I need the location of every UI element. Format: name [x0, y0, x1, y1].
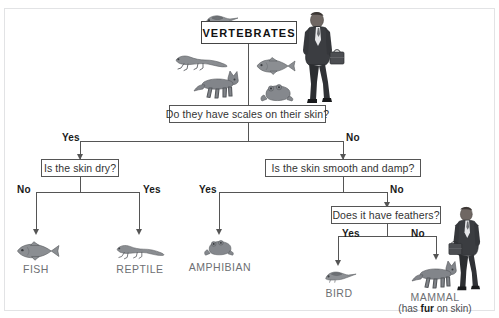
connector-scales-split	[80, 141, 343, 142]
arrow-feathers-yes	[335, 260, 341, 266]
root-node-vertebrates: VERTEBRATES	[201, 21, 297, 44]
connector-smooth-stem	[343, 177, 344, 192]
arrow-dry-no	[33, 229, 39, 235]
connector-dry-stem	[80, 177, 81, 192]
edge-label-feathers-yes: Yes	[342, 228, 360, 239]
leaf-note-suffix: on skin)	[434, 303, 472, 314]
connector-dry-no	[36, 192, 37, 233]
leaf-icon-reptile	[112, 240, 168, 262]
edge-label-dry-yes: Yes	[143, 184, 161, 195]
edge-label-scales-yes: Yes	[62, 132, 80, 143]
leaf-label-fish: FISH	[0, 263, 72, 275]
art-root-fox	[192, 68, 242, 102]
leaf-icon-mammal	[410, 258, 460, 292]
edge-label-dry-no: No	[17, 184, 31, 195]
art-root-frog	[258, 82, 298, 104]
leaf-icon-bird	[320, 268, 358, 284]
connector-smooth-split	[219, 192, 387, 193]
art-root-man	[297, 10, 345, 106]
connector-feathers-stem	[387, 224, 388, 236]
leaf-label-amphibian: AMPHIBIAN	[184, 261, 256, 273]
edge-label-smooth-yes: Yes	[199, 184, 217, 195]
connector-dry-yes	[139, 192, 140, 233]
question-box-dry: Is the skin dry?	[41, 159, 119, 177]
question-box-feathers: Does it have feathers?	[331, 206, 441, 224]
arrow-smooth-yes	[216, 229, 222, 235]
connector-dry-split	[36, 192, 139, 193]
cut-off-header-text	[8, 0, 238, 3]
art-root-fish	[252, 56, 296, 76]
leaf-label-bird: BIRD	[303, 287, 375, 299]
leaf-note-mammal: (has fur on skin)	[385, 303, 485, 314]
leaf-label-mammal: MAMMAL	[399, 291, 471, 303]
connector-smooth-yes	[219, 192, 220, 233]
leaf-note-bold: fur	[421, 303, 434, 314]
question-box-smooth: Is the skin smooth and damp?	[265, 159, 421, 177]
connector-root-to-scales	[248, 44, 249, 106]
leaf-note-prefix: (has	[398, 303, 420, 314]
leaf-icon-amphibian	[202, 238, 238, 258]
arrow-dry-yes	[136, 229, 142, 235]
edge-label-feathers-no: No	[411, 228, 425, 239]
leaf-label-reptile: REPTILE	[104, 263, 176, 275]
diagram-page: VERTEBRATES Do they have scales on their…	[0, 0, 499, 318]
leaf-icon-fish	[12, 240, 60, 262]
edge-label-smooth-no: No	[390, 184, 404, 195]
edge-label-scales-no: No	[346, 132, 360, 143]
question-box-scales: Do they have scales on their skin?	[169, 105, 326, 123]
connector-scales-stem	[248, 123, 249, 141]
